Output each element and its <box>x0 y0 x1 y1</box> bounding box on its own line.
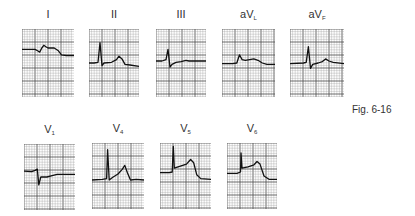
ecg-trace <box>227 153 277 179</box>
lead-name: III <box>176 8 185 20</box>
lead-subscript: 1 <box>52 130 55 136</box>
lead-subscript: F <box>322 15 326 21</box>
lead-label: aVF <box>290 8 344 21</box>
lead-V6: V6 <box>227 143 277 209</box>
lead-III: III <box>156 29 206 97</box>
lead-label: V6 <box>227 122 277 135</box>
lead-label: III <box>156 8 206 21</box>
lead-label: II <box>89 8 139 21</box>
ecg-strip <box>89 29 139 97</box>
lead-name: V <box>113 122 120 134</box>
figure-caption: Fig. 6-16 <box>352 104 391 115</box>
lead-V1: V1 <box>24 144 75 210</box>
ecg-strip <box>290 29 344 97</box>
lead-label: I <box>22 8 74 21</box>
lead-label: aVL <box>222 8 275 21</box>
lead-aVF: aVF <box>290 29 344 97</box>
lead-aVL: aVL <box>222 29 275 97</box>
lead-name: V <box>44 123 51 135</box>
lead-V4: V4 <box>92 143 144 209</box>
lead-label: V5 <box>160 122 211 135</box>
ecg-strip <box>160 143 211 209</box>
lead-subscript: 6 <box>254 129 257 135</box>
lead-I: I <box>22 29 74 97</box>
lead-subscript: 5 <box>188 129 191 135</box>
lead-II: II <box>89 29 139 97</box>
lead-name: II <box>111 8 117 20</box>
lead-subscript: 4 <box>120 129 123 135</box>
lead-name: aV <box>308 8 321 20</box>
ecg-strip <box>156 29 206 97</box>
ecg-strip <box>222 29 275 97</box>
lead-name: I <box>46 8 49 20</box>
ecg-strip <box>227 143 277 209</box>
lead-V5: V5 <box>160 143 211 209</box>
lead-name: V <box>247 122 254 134</box>
lead-label: V4 <box>92 122 144 135</box>
lead-subscript: L <box>254 15 257 21</box>
ecg-strip <box>92 143 144 209</box>
ecg-strip <box>24 144 75 210</box>
lead-name: V <box>180 122 187 134</box>
lead-name: aV <box>240 8 253 20</box>
lead-label: V1 <box>24 123 75 136</box>
ecg-trace <box>156 49 206 67</box>
ecg-strip <box>22 29 74 97</box>
